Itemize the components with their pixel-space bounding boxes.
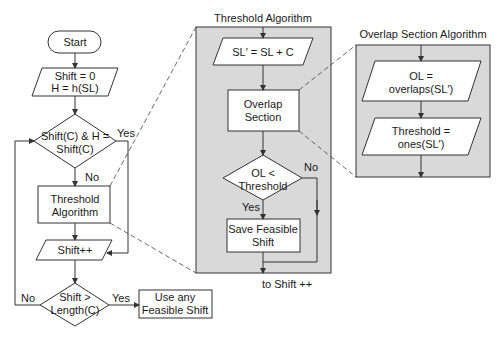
increment-label: Shift++ [58,244,93,256]
decision2-no: No [21,292,35,304]
overlaps-label-2: overlaps(SL′) [389,83,453,95]
overlaps-label-1: OL = [409,70,433,82]
overlap-label-2: Section [245,111,282,123]
decision-threshold-no: No [304,161,318,173]
save-label-1: Save Feasible [228,223,298,235]
flowchart: Start Shift = 0 H = h(SL) Shift(C) & H =… [0,0,503,342]
exit-label: to Shift ++ [262,278,312,290]
decision1-yes: Yes [117,127,135,139]
decision2-label-2: Length(C) [51,304,100,316]
decision-threshold-yes: Yes [242,201,260,213]
result-label-1: Use any [155,291,196,303]
decision-threshold-label-2: Threshold [239,180,288,192]
decision1-label-1: Shift(C) & H = [41,130,109,142]
start-label: Start [63,36,86,48]
overlap-label-1: Overlap [244,98,283,110]
sl-prime-label: SL′ = SL + C [232,46,294,58]
threshold-panel-title: Threshold Algorithm [214,12,312,24]
overlap-panel-title: Overlap Section Algorithm [359,28,486,40]
decision-threshold-label-1: OL < [251,167,275,179]
result-label-2: Feasible Shift [142,304,209,316]
decision2-label-1: Shift > [59,291,91,303]
decision1-no: No [85,171,99,183]
save-label-2: Shift [252,236,274,248]
threshold-label-1: Threshold [51,193,100,205]
decision1-label-2: Shift(C) [56,143,93,155]
threshold-label-2: Algorithm [52,206,98,218]
init-label-2: H = h(SL) [51,82,98,94]
decision2-yes: Yes [112,292,130,304]
ones-label-1: Threshold = [392,125,450,137]
init-label-1: Shift = 0 [55,70,96,82]
ones-label-2: ones(SL′) [398,138,445,150]
